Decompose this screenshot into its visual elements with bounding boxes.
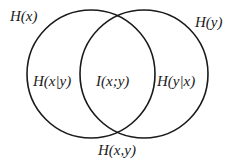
label-h-y: H(y) xyxy=(194,14,222,31)
label-h-y-given-x: H(y|x) xyxy=(156,73,195,90)
venn-svg: H(x) H(y) H(x,y) H(x|y) I(x;y) H(y|x) xyxy=(0,0,237,166)
label-mutual-information: I(x;y) xyxy=(95,73,129,90)
label-h-x: H(x) xyxy=(9,8,37,25)
venn-diagram: H(x) H(y) H(x,y) H(x|y) I(x;y) H(y|x) xyxy=(0,0,237,166)
label-h-x-given-y: H(x|y) xyxy=(32,73,71,90)
label-h-xy: H(x,y) xyxy=(97,142,136,159)
